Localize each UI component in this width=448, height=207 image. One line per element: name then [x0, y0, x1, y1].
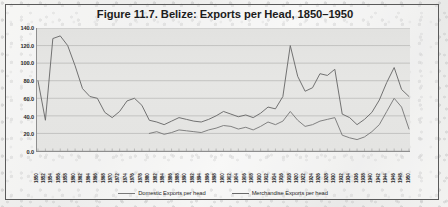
legend-label: Merchandise Exports per head — [252, 190, 328, 196]
x-axis-tick: 1906 — [242, 173, 247, 183]
x-axis-tick: 1892 — [190, 173, 195, 183]
x-axis-tick: 1872 — [115, 173, 120, 183]
x-axis-tick: 1918 — [287, 173, 292, 183]
series-line — [38, 36, 409, 125]
scanned-page: Figure 11.7. Belize: Exports per Head, 1… — [0, 0, 448, 207]
x-axis-tick: 1868 — [101, 173, 106, 183]
y-axis-tick: 60.0 — [24, 96, 35, 102]
y-axis-tick: 20.0 — [24, 131, 35, 137]
x-axis-tick: 1856 — [56, 173, 61, 183]
x-axis-tick: 1874 — [123, 173, 128, 183]
x-axis-tick: 1882 — [153, 173, 158, 183]
x-axis-tick: 1938 — [361, 173, 366, 183]
x-axis-tick: 1888 — [175, 173, 180, 183]
x-axis-tick: 1922 — [301, 173, 306, 183]
x-axis-tick: 1914 — [272, 173, 277, 183]
y-axis-tick: 100.0 — [21, 60, 35, 66]
x-axis-tick: 1896 — [205, 173, 210, 183]
x-axis-tick: 1904 — [234, 173, 239, 183]
chart-legend: Domestic Exports per headMerchandise Exp… — [36, 186, 410, 200]
y-axis-tick: 80.0 — [24, 78, 35, 84]
x-axis-tick: 1944 — [383, 173, 388, 183]
x-axis-tick: 1878 — [138, 173, 143, 183]
x-axis-tick: 1934 — [346, 173, 351, 183]
x-axis-tick: 1942 — [376, 173, 381, 183]
x-axis-tick: 1864 — [86, 173, 91, 183]
legend-line-swatch — [232, 193, 249, 194]
x-axis-tick: 1884 — [160, 173, 165, 183]
x-axis-tick: 1890 — [182, 173, 187, 183]
x-axis-tick: 1900 — [220, 173, 225, 183]
x-axis-tick: 1886 — [168, 173, 173, 183]
x-axis-tick: 1870 — [108, 173, 113, 183]
legend-label: Domestic Exports per head — [138, 190, 205, 196]
x-axis-tick: 1854 — [48, 173, 53, 183]
x-axis-tick: 1924 — [309, 173, 314, 183]
y-axis-labels: 0.020.040.060.080.0100.0120.0140.0 — [8, 28, 34, 152]
x-axis-tick: 1940 — [368, 173, 373, 183]
x-axis-tick: 1862 — [78, 173, 83, 183]
x-axis-tick: 1908 — [249, 173, 254, 183]
legend-item: Merchandise Exports per head — [232, 190, 328, 196]
x-axis-tick: 1902 — [227, 173, 232, 183]
x-axis-tick: 1920 — [294, 173, 299, 183]
x-axis-tick: 1898 — [212, 173, 217, 183]
x-axis-tick: 1950 — [406, 173, 411, 183]
line-chart — [37, 28, 410, 151]
x-axis-tick: 1916 — [279, 173, 284, 183]
chart-plot-area — [36, 28, 410, 152]
x-axis-tick: 1948 — [398, 173, 403, 183]
x-axis-tick: 1946 — [391, 173, 396, 183]
x-axis-tick: 1852 — [41, 173, 46, 183]
x-axis-tick: 1894 — [197, 173, 202, 183]
legend-item: Domestic Exports per head — [118, 190, 205, 196]
x-axis-tick: 1860 — [71, 173, 76, 183]
x-axis-tick: 1930 — [331, 173, 336, 183]
x-axis-tick: 1926 — [316, 173, 321, 183]
x-axis-labels: 1850185218541856185818601862186418661868… — [36, 153, 410, 183]
x-axis-tick: 1876 — [130, 173, 135, 183]
y-axis-tick: 120.0 — [21, 43, 35, 49]
x-axis-tick: 1880 — [145, 173, 150, 183]
x-axis-tick: 1850 — [34, 173, 39, 183]
y-axis-tick: 0.0 — [27, 149, 34, 155]
x-axis-tick: 1936 — [354, 173, 359, 183]
x-axis-tick: 1932 — [339, 173, 344, 183]
x-axis-tick: 1910 — [257, 173, 262, 183]
x-axis-tick: 1858 — [63, 173, 68, 183]
y-axis-tick: 140.0 — [21, 25, 35, 31]
y-axis-tick: 40.0 — [24, 114, 35, 120]
x-axis-tick: 1928 — [324, 173, 329, 183]
x-axis-tick: 1912 — [264, 173, 269, 183]
legend-line-swatch — [118, 193, 135, 194]
page-title: Figure 11.7. Belize: Exports per Head, 1… — [36, 6, 414, 22]
x-axis-tick: 1866 — [93, 173, 98, 183]
